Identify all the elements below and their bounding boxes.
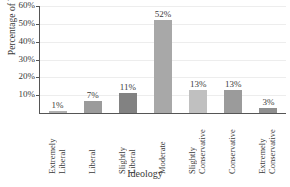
x-category-label: Liberal [74,116,109,174]
bar-value-label: 1% [40,100,75,110]
y-tick-label: 30% [2,54,35,64]
y-tick-label: 50% [2,18,35,28]
bar[interactable] [154,20,172,113]
bar-chart: Percentage of Voters 10%20%30%40%50%60% … [0,0,290,187]
chart-title [0,0,290,1]
bar-slot: 13% [181,6,216,113]
bar-value-label: 52% [145,9,180,19]
x-category-line: Conservative [228,116,237,174]
bar-slot: 11% [110,6,145,113]
x-axis-title: Ideology [0,168,290,179]
y-tick-label: 60% [2,0,35,10]
x-category-line: Conservative [198,116,207,174]
bar-value-label: 11% [110,82,145,92]
x-category-line: Slightly [117,116,126,174]
bar-value-label: 3% [251,97,286,107]
y-tick-label: 40% [2,36,35,46]
x-category-line: Conservative [268,116,277,174]
x-category-line: Liberal [57,116,66,174]
y-tick-label: 10% [2,89,35,99]
x-category-line: Liberal [87,116,96,174]
plot-area: 10%20%30%40%50%60% 1%7%11%52%13%13%3% [39,6,286,114]
x-category-label: SlightlyConservative [180,116,215,174]
bar-series: 1%7%11%52%13%13%3% [40,6,286,113]
x-category-label: Conservative [215,116,250,174]
bar[interactable] [224,90,242,113]
bar-value-label: 13% [216,79,251,89]
bar-value-label: 13% [181,79,216,89]
bar[interactable] [84,101,102,113]
x-category-label: ExtremelyConservative [250,116,285,174]
x-category-line: Slightly [188,116,197,174]
x-category-label: SlightlyLiberal [109,116,144,174]
x-category-line: Extremely [47,116,56,174]
x-category-label: Moderate [144,116,179,174]
x-category-line: Liberal [127,116,136,174]
bar[interactable] [49,111,67,113]
x-category-line: Moderate [157,116,166,174]
bar-value-label: 7% [75,90,110,100]
y-tick-label: 20% [2,71,35,81]
bar[interactable] [189,90,207,113]
bar-slot: 13% [216,6,251,113]
bar[interactable] [119,93,137,113]
bar-slot: 52% [145,6,180,113]
bar[interactable] [259,108,277,113]
x-category-label: ExtremelyLiberal [39,116,74,174]
bar-slot: 3% [251,6,286,113]
bar-slot: 7% [75,6,110,113]
bar-slot: 1% [40,6,75,113]
